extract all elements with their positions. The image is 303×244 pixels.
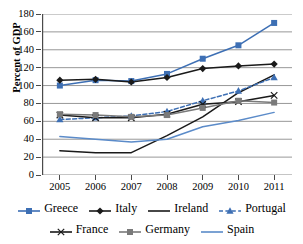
x-tick-label: 2008 [150, 181, 184, 192]
diamond-marker [199, 65, 206, 72]
legend-label: Spain [227, 222, 254, 237]
marker-diamond [235, 62, 242, 69]
legend-row-1: GreeceItalyIrelandPortugal [0, 198, 303, 219]
y-tick-mark [36, 85, 41, 86]
legend-item-france[interactable]: France [49, 222, 109, 237]
legend-swatch-spain [200, 224, 224, 236]
legend-swatch-france [49, 224, 73, 236]
x-tick-mark [167, 175, 168, 180]
marker-square [164, 112, 170, 118]
y-tick-mark [36, 139, 41, 140]
y-tick-label: 100 [0, 81, 34, 91]
legend-item-italy[interactable]: Italy [88, 201, 137, 216]
triangle-marker [235, 87, 242, 94]
square-marker [271, 100, 277, 106]
marker-square [271, 20, 277, 26]
y-tick-mark [36, 49, 41, 50]
y-tick-mark [36, 103, 41, 104]
legend-marker-ireland [147, 205, 171, 217]
marker-square [93, 112, 99, 118]
x-tick-label: 2011 [257, 181, 291, 192]
y-tick-mark [36, 31, 41, 32]
square-marker [271, 20, 277, 26]
chart-container: Percent of GDP 020406080100120140160180 … [0, 0, 303, 244]
x-tick-mark [95, 175, 96, 180]
square-marker [235, 42, 241, 48]
legend-marker-germany [118, 226, 142, 238]
legend-label: Ireland [174, 201, 208, 216]
chart-legend: GreeceItalyIrelandPortugalFranceGermanyS… [0, 198, 303, 240]
square-marker [235, 98, 241, 104]
plot-area [42, 14, 292, 175]
legend-swatch-ireland [147, 203, 171, 215]
legend-swatch-germany [118, 224, 142, 236]
y-tick-label: 40 [0, 134, 34, 144]
marker-diamond [271, 60, 278, 67]
y-tick-label: 120 [0, 63, 34, 73]
y-tick-label: 80 [0, 98, 34, 108]
legend-marker-portugal [218, 205, 242, 217]
legend-item-portugal[interactable]: Portugal [218, 201, 286, 216]
x-tick-label: 2005 [43, 181, 77, 192]
legend-item-germany[interactable]: Germany [118, 222, 190, 237]
square-marker [93, 112, 99, 118]
marker-square [271, 100, 277, 106]
y-tick-mark [36, 14, 41, 15]
legend-item-greece[interactable]: Greece [17, 201, 78, 216]
y-tick-label: 60 [0, 116, 34, 126]
x-tick-label: 2006 [79, 181, 113, 192]
marker-square [235, 42, 241, 48]
x-tick-mark [59, 175, 60, 180]
legend-row-2: FranceGermanySpain [0, 219, 303, 240]
x-tick-label: 2007 [114, 181, 148, 192]
y-tick-mark [36, 67, 41, 68]
square-marker [164, 112, 170, 118]
square-marker [128, 114, 134, 120]
legend-item-ireland[interactable]: Ireland [147, 201, 208, 216]
y-axis-tick-labels: 020406080100120140160180 [0, 0, 42, 175]
marker-square [235, 98, 241, 104]
y-tick-label: 160 [0, 27, 34, 37]
triangle-marker [271, 74, 278, 81]
y-tick-label: 140 [0, 45, 34, 55]
marker-diamond [199, 65, 206, 72]
legend-swatch-portugal [218, 203, 242, 215]
legend-label: Germany [145, 222, 190, 237]
square-marker [57, 111, 63, 117]
marker-square [57, 111, 63, 117]
y-tick-label: 0 [0, 170, 34, 180]
marker-square [128, 114, 134, 120]
x-tick-mark [131, 175, 132, 180]
diamond-marker [97, 207, 104, 214]
square-marker [200, 105, 206, 111]
square-marker [26, 208, 32, 214]
legend-label: Greece [44, 201, 78, 216]
marker-square [127, 229, 133, 235]
legend-label: Italy [115, 201, 137, 216]
marker-triangle [235, 87, 242, 94]
x-tick-label: 2009 [186, 181, 220, 192]
legend-label: Portugal [245, 201, 286, 216]
y-tick-label: 180 [0, 9, 34, 19]
marker-square [26, 208, 32, 214]
legend-item-spain[interactable]: Spain [200, 222, 254, 237]
diamond-marker [235, 62, 242, 69]
plot-svg [42, 14, 292, 175]
x-tick-mark [202, 175, 203, 180]
marker-square [200, 56, 206, 62]
legend-marker-italy [88, 205, 112, 217]
y-tick-mark [36, 175, 41, 176]
marker-square [200, 105, 206, 111]
square-marker [127, 229, 133, 235]
legend-swatch-greece [17, 203, 41, 215]
marker-diamond [97, 207, 104, 214]
x-tick-label: 2010 [221, 181, 255, 192]
square-marker [200, 56, 206, 62]
legend-swatch-italy [88, 203, 112, 215]
x-tick-mark [238, 175, 239, 180]
legend-marker-france [49, 226, 73, 238]
marker-triangle [271, 74, 278, 81]
legend-marker-greece [17, 205, 41, 217]
diamond-marker [271, 60, 278, 67]
legend-label: France [76, 222, 109, 237]
